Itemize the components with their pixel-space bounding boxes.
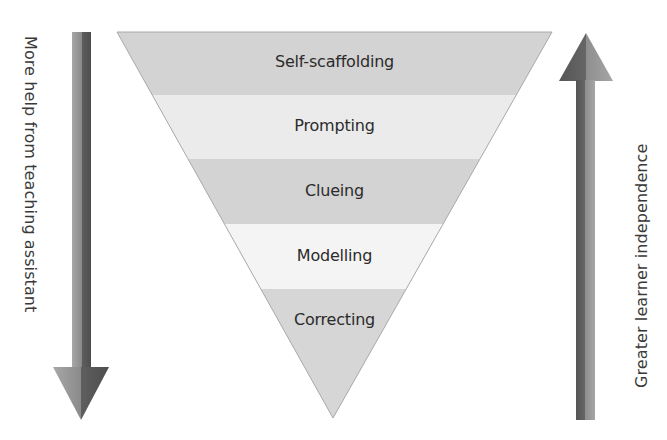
level-label-correcting: Correcting (117, 310, 552, 329)
level-label-clueing: Clueing (117, 181, 552, 200)
level-label-prompting: Prompting (117, 116, 552, 135)
down-arrow-icon (53, 32, 109, 420)
level-label-modelling: Modelling (117, 246, 552, 265)
pyramid-bands (100, 32, 570, 424)
up-arrow-icon (559, 33, 613, 420)
left-arrow-label: More help from teaching assistant (21, 36, 40, 312)
level-label-self-scaffolding: Self-scaffolding (117, 52, 552, 71)
right-arrow-label: Greater learner independence (632, 144, 651, 388)
